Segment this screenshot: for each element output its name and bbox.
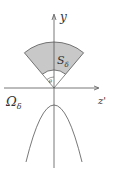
z-axis-label: z' [97, 95, 106, 106]
cone-right-line [54, 74, 66, 88]
diagram-canvas: y z' Sδ Ωδ θ [0, 0, 114, 170]
diagram-svg: y z' Sδ Ωδ θ [0, 0, 114, 170]
y-axis-label: y [59, 10, 67, 24]
angle-label: θ [49, 78, 52, 84]
domain-label: Ωδ [5, 94, 22, 111]
